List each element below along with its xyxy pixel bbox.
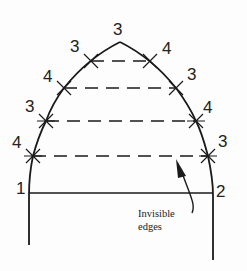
label-apex: 3 [113, 20, 122, 39]
label-left-4: 4 [12, 133, 21, 152]
arrow-head-icon [176, 159, 186, 178]
label-right-1: 4 [162, 39, 171, 58]
label-left-2: 4 [43, 67, 52, 86]
invisible-edges [33, 61, 208, 156]
diagram-canvas: 3 3 4 3 4 4 3 4 3 1 2 Invisible edges [0, 0, 247, 271]
label-base-right: 2 [216, 182, 225, 201]
dome-development-figure: 3 3 4 3 4 4 3 4 3 1 2 Invisible edges [0, 0, 247, 271]
label-left-3: 3 [25, 97, 34, 116]
label-right-3: 4 [203, 98, 212, 117]
annotation-line2: edges [138, 221, 162, 232]
label-right-2: 3 [187, 65, 196, 84]
label-right-4: 3 [218, 132, 227, 151]
annotation-line1: Invisible [138, 208, 175, 219]
label-left-1: 3 [70, 37, 79, 56]
right-curve [120, 42, 213, 260]
label-base-left: 1 [16, 179, 25, 198]
